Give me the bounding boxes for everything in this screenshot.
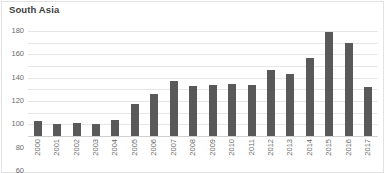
bar: [73, 123, 81, 136]
chart-title: South Asia: [9, 4, 59, 15]
bar: [286, 74, 294, 136]
x-axis-tick-label: 2014: [306, 139, 314, 156]
x-axis-tick-label: 2016: [345, 139, 353, 156]
bar-slot: 2001: [47, 31, 66, 136]
x-axis-tick-label: 2006: [151, 139, 159, 156]
x-axis-tick-label: 2009: [209, 139, 217, 156]
bar-slot: 2006: [145, 31, 164, 136]
bar-slot: 2003: [86, 31, 105, 136]
bar-series: 2000200120022003200420052006200720082009…: [28, 31, 378, 136]
x-axis-tick-label: 2002: [73, 139, 81, 156]
bar-slot: 2008: [184, 31, 203, 136]
bar-slot: 2010: [222, 31, 241, 136]
x-axis-tick-label: 2017: [364, 139, 372, 156]
bar-slot: 2007: [164, 31, 183, 136]
bar: [228, 84, 236, 136]
x-axis-tick-label: 2005: [131, 139, 139, 156]
bar: [170, 81, 178, 136]
bar: [189, 86, 197, 136]
bar: [111, 120, 119, 136]
bar: [364, 87, 372, 136]
x-axis-tick-label: 2012: [267, 139, 275, 156]
bar-slot: 2017: [358, 31, 377, 136]
bar-slot: 2014: [300, 31, 319, 136]
bar: [150, 94, 158, 136]
x-axis-tick-label: 2000: [34, 139, 42, 156]
y-axis-tick-label: 180: [11, 27, 24, 35]
gridline: 0: [28, 136, 378, 137]
x-axis-tick-label: 2007: [170, 139, 178, 156]
bar-slot: 2013: [281, 31, 300, 136]
bar-slot: 2002: [67, 31, 86, 136]
bar: [53, 124, 61, 136]
bar: [209, 85, 217, 136]
bar: [345, 43, 353, 136]
bar-slot: 2016: [339, 31, 358, 136]
x-axis-tick-label: 2004: [112, 139, 120, 156]
x-axis-tick-label: 2013: [287, 139, 295, 156]
bar-slot: 2000: [28, 31, 47, 136]
y-axis-tick-label: 160: [11, 51, 24, 59]
y-axis-tick-label: 100: [11, 121, 24, 129]
y-axis-tick-label: 80: [16, 144, 24, 152]
bar: [34, 121, 42, 136]
bar-slot: 2012: [261, 31, 280, 136]
chart-card: South Asia 020406080100120140160180 2000…: [0, 0, 384, 173]
y-axis-tick-label: 60: [16, 167, 24, 173]
bar: [325, 32, 333, 136]
y-axis-tick-label: 140: [11, 74, 24, 82]
bar: [131, 104, 139, 136]
plot-area: 020406080100120140160180 200020012002200…: [28, 31, 378, 136]
bar-slot: 2004: [106, 31, 125, 136]
x-axis-tick-label: 2008: [189, 139, 197, 156]
bar: [248, 85, 256, 136]
x-axis-tick-label: 2001: [53, 139, 61, 156]
bar-slot: 2015: [320, 31, 339, 136]
bar: [267, 70, 275, 136]
bar: [92, 124, 100, 136]
x-axis-tick-label: 2011: [248, 139, 256, 155]
y-axis-tick-label: 120: [11, 97, 24, 105]
bar-slot: 2009: [203, 31, 222, 136]
x-axis-tick-label: 2010: [228, 139, 236, 156]
x-axis-tick-label: 2003: [92, 139, 100, 156]
bar-slot: 2011: [242, 31, 261, 136]
bar: [306, 58, 314, 136]
x-axis-tick-label: 2015: [326, 139, 334, 156]
bar-slot: 2005: [125, 31, 144, 136]
